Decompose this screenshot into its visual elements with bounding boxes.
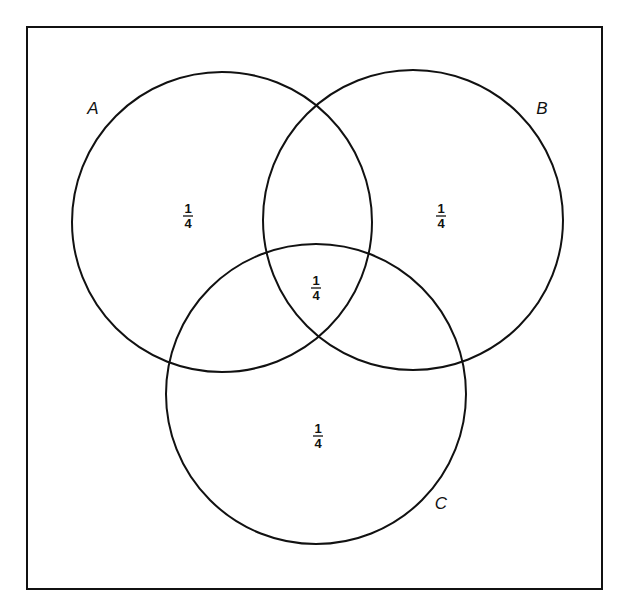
venn-diagram: A B C 1 4 1 4 1 4 1 4 — [0, 0, 620, 606]
denominator: 4 — [184, 216, 192, 231]
circle-a — [72, 72, 372, 372]
numerator: 1 — [437, 201, 444, 216]
circle-b — [263, 70, 563, 370]
numerator: 1 — [184, 201, 191, 216]
label-b: B — [536, 99, 547, 118]
region-b-only-fraction: 1 4 — [436, 201, 446, 231]
region-abc-fraction: 1 4 — [311, 273, 321, 303]
region-c-only-fraction: 1 4 — [313, 421, 323, 451]
label-c: C — [435, 494, 448, 513]
denominator: 4 — [437, 216, 445, 231]
region-a-only-fraction: 1 4 — [183, 201, 193, 231]
denominator: 4 — [314, 436, 322, 451]
numerator: 1 — [312, 273, 319, 288]
numerator: 1 — [314, 421, 321, 436]
label-a: A — [86, 99, 98, 118]
denominator: 4 — [312, 288, 320, 303]
